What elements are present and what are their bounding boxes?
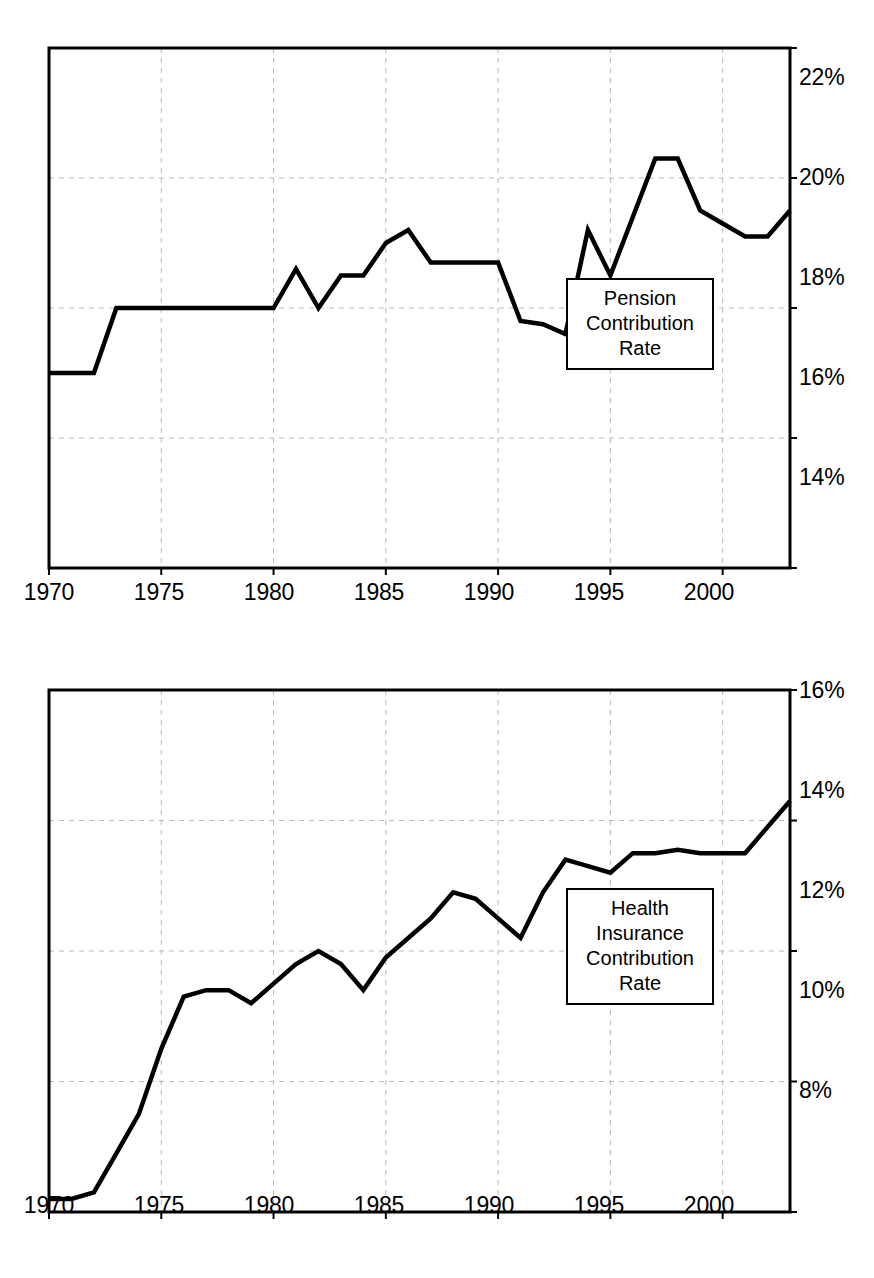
y-tick-label: 8% bbox=[799, 1079, 832, 1102]
legend-line: Contribution bbox=[578, 946, 702, 971]
pension-plot-area bbox=[0, 30, 874, 630]
x-tick-label: 1975 bbox=[124, 1194, 194, 1217]
x-tick-label: 2000 bbox=[674, 1194, 744, 1217]
x-tick-label: 1995 bbox=[564, 1194, 634, 1217]
x-tick-label: 1990 bbox=[454, 1194, 524, 1217]
y-tick-label: 22% bbox=[799, 66, 844, 89]
legend-line: Pension bbox=[578, 286, 702, 311]
y-tick-label: 14% bbox=[799, 466, 844, 489]
x-tick-label: 1970 bbox=[14, 581, 84, 604]
legend-line: Insurance bbox=[578, 921, 702, 946]
x-tick-label: 2000 bbox=[674, 581, 744, 604]
y-tick-label: 14% bbox=[799, 779, 844, 802]
x-tick-label: 1980 bbox=[234, 581, 304, 604]
y-tick-label: 12% bbox=[799, 879, 844, 902]
x-tick-label: 1985 bbox=[344, 1194, 414, 1217]
legend-line: Health bbox=[578, 896, 702, 921]
legend-line: Contribution bbox=[578, 311, 702, 336]
pension-legend-box: Pension Contribution Rate bbox=[566, 278, 714, 370]
x-tick-label: 1985 bbox=[344, 581, 414, 604]
y-tick-label: 16% bbox=[799, 679, 844, 702]
cropped-top-caption bbox=[0, 0, 874, 2]
x-tick-label: 1975 bbox=[124, 581, 194, 604]
health-plot-area bbox=[0, 672, 874, 1272]
x-tick-label: 1980 bbox=[234, 1194, 304, 1217]
pension-chart: 22% 20% 18% 16% 14% 1970 1975 1980 1985 … bbox=[0, 30, 874, 630]
health-legend-box: Health Insurance Contribution Rate bbox=[566, 888, 714, 1005]
health-insurance-chart: 16% 14% 12% 10% 8% 1970 1975 1980 1985 1… bbox=[0, 672, 874, 1272]
legend-line: Rate bbox=[578, 971, 702, 996]
y-tick-label: 20% bbox=[799, 166, 844, 189]
x-tick-label: 1990 bbox=[454, 581, 524, 604]
y-tick-label: 16% bbox=[799, 366, 844, 389]
y-tick-label: 18% bbox=[799, 266, 844, 289]
x-tick-label: 1970 bbox=[14, 1194, 84, 1217]
y-tick-label: 10% bbox=[799, 979, 844, 1002]
legend-line: Rate bbox=[578, 336, 702, 361]
chart-page: 22% 20% 18% 16% 14% 1970 1975 1980 1985 … bbox=[0, 0, 874, 1278]
x-tick-label: 1995 bbox=[564, 581, 634, 604]
